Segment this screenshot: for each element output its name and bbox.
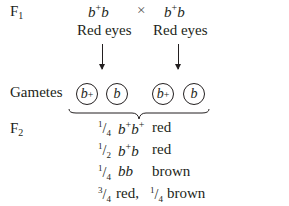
allele: b: [101, 4, 109, 20]
allele: b: [164, 4, 172, 20]
denominator: 2: [106, 150, 111, 160]
allele: b: [118, 143, 126, 159]
numerator: 1: [98, 163, 103, 173]
numerator: 1: [98, 141, 103, 151]
allele: b: [131, 121, 139, 137]
allele-superscript: +: [139, 119, 145, 130]
down-arrow-icon: [102, 44, 103, 69]
gamete-circle: b+: [76, 83, 98, 105]
f2-result-row: 1/4 b+b+ red: [0, 119, 289, 139]
parent-1-genotype: b+b: [88, 2, 109, 21]
gamete-circle: b+: [152, 83, 174, 105]
genotype: b+b+: [118, 119, 144, 138]
phenotype: brown: [152, 163, 190, 180]
gamete-circle: b: [106, 83, 128, 105]
allele: b: [126, 163, 134, 179]
gamete-allele: b: [81, 86, 88, 102]
gamete-allele: b: [191, 86, 198, 102]
summary-brown: brown: [167, 185, 205, 202]
allele: b: [118, 163, 126, 179]
summary-red: red,: [116, 185, 139, 202]
genotype: b+b: [118, 141, 139, 160]
gamete-superscript: +: [88, 89, 94, 100]
fraction: 1/4: [98, 119, 111, 138]
fraction: 1/4: [150, 185, 163, 204]
f2-result-row: 1/2 b+b red: [0, 141, 289, 161]
down-arrow-icon: [178, 44, 179, 69]
numerator: 1: [98, 119, 103, 129]
allele: b: [177, 4, 185, 20]
phenotype: red: [152, 119, 171, 136]
f1-label: F1: [10, 3, 23, 21]
allele: b: [131, 143, 139, 159]
numerator: 3: [98, 185, 103, 195]
fraction: 3/4: [98, 185, 111, 204]
parent-2-genotype: b+b: [164, 2, 185, 21]
phenotype: red: [152, 141, 171, 158]
numerator: 1: [150, 185, 155, 195]
parent-1-phenotype: Red eyes: [77, 22, 132, 39]
f2-summary-row: 3/4 red, 1/4 brown: [0, 185, 289, 205]
denominator: 4: [106, 172, 111, 182]
allele: b: [118, 121, 126, 137]
f2-result-row: 1/4 bb brown: [0, 163, 289, 183]
parent-2-phenotype: Red eyes: [153, 22, 208, 39]
denominator: 4: [106, 194, 111, 204]
gamete-allele: b: [157, 86, 164, 102]
f1-subscript: 1: [18, 10, 23, 21]
fraction: 1/2: [98, 141, 111, 160]
gamete-superscript: +: [164, 89, 170, 100]
gametes-label: Gametes: [10, 84, 62, 101]
gamete-circle: b: [183, 83, 205, 105]
denominator: 4: [106, 128, 111, 138]
genotype: bb: [118, 163, 133, 180]
allele: b: [88, 4, 96, 20]
fraction: 1/4: [98, 163, 111, 182]
denominator: 4: [158, 194, 163, 204]
cross-symbol: ×: [137, 2, 145, 19]
gamete-allele: b: [114, 86, 121, 102]
